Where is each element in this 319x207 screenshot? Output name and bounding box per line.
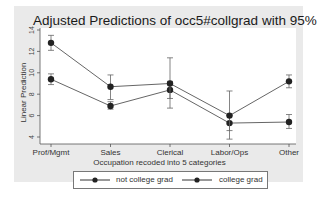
svg-text:4: 4 [28,135,35,139]
svg-text:14: 14 [28,26,35,34]
svg-text:Prof/Mgmt: Prof/Mgmt [33,148,71,157]
legend-marker-icon [194,177,199,182]
y-axis-label: Linear Prediction [19,58,28,128]
legend-marker-icon [92,177,97,182]
svg-text:12: 12 [28,47,35,55]
svg-text:6: 6 [28,114,35,118]
svg-text:Labor/Ops: Labor/Ops [211,148,248,157]
legend-item-not-college: not college grad [116,175,173,184]
svg-text:Other: Other [279,148,299,157]
legend-item-college: college grad [219,175,263,184]
x-axis-label: Occupation recoded into 5 categories [0,158,319,167]
svg-text:Sales: Sales [100,148,120,157]
legend: not college grad college grad [73,171,268,189]
svg-text:8: 8 [28,92,35,96]
svg-text:10: 10 [28,69,35,77]
svg-text:Clerical: Clerical [157,148,184,157]
